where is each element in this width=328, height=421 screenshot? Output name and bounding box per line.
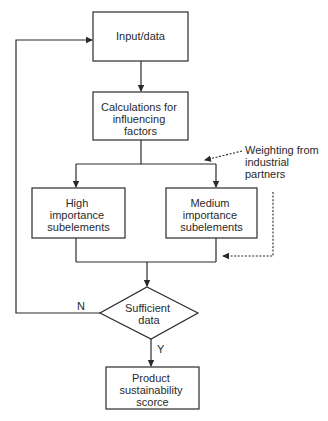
node-medium: Medium importance subelements <box>166 188 257 238</box>
high-label-line: importance <box>50 209 104 221</box>
node-calc: Calculations for influencing factors <box>93 92 188 140</box>
node-output: Product sustainability scorce <box>106 367 199 409</box>
node-decision: Sufficient data <box>100 287 198 339</box>
decision-label-line: data <box>138 314 160 326</box>
output-label-line: Product <box>132 372 170 384</box>
medium-label-line: subelements <box>180 221 243 233</box>
annotation-line: Weighting from <box>245 144 319 156</box>
calc-label-line: factors <box>124 125 158 137</box>
input-label-line: Input/data <box>116 30 166 42</box>
medium-label-line: Medium <box>190 197 229 209</box>
edge-label-no: N <box>77 300 85 312</box>
decision-label-line: Sufficient <box>125 302 170 314</box>
high-label-line: subelements <box>47 221 110 233</box>
output-label-line: sustainability <box>119 384 182 396</box>
medium-label-line: importance <box>183 209 237 221</box>
edge-label-yes: Y <box>157 343 165 355</box>
annotation-line: industrial <box>245 156 289 168</box>
flowchart: Input/data Calculations for influencing … <box>0 0 328 421</box>
high-label-line: High <box>66 197 89 209</box>
edge-annotation-to-branch <box>205 151 242 160</box>
node-input: Input/data <box>93 12 188 61</box>
annotation-line: partners <box>245 168 286 180</box>
weighting-annotation: Weighting from industrial partners <box>245 144 322 180</box>
calc-label-line: influencing <box>113 113 166 125</box>
node-high: High importance subelements <box>32 188 125 238</box>
output-label-line: scorce <box>136 396 168 408</box>
input-label: Input/data <box>116 30 166 42</box>
calc-label-line: Calculations for <box>101 101 177 113</box>
edge-decision-loop-to-input <box>16 40 100 313</box>
